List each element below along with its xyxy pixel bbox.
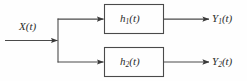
- block-diagram-canvas: X(t) h1(t) h2(t) Y1(t) Y2(t): [0, 0, 247, 81]
- block-1-label-arg: (t): [129, 12, 139, 24]
- block-2-label-sub: 2: [126, 60, 130, 69]
- output-2-label-sub: 2: [218, 60, 222, 69]
- output-2-label-arg: (t): [222, 55, 232, 67]
- block-2-label-arg: (t): [129, 55, 139, 67]
- output-1-label: Y1(t): [212, 13, 232, 24]
- input-signal-label-arg: (t): [26, 20, 36, 32]
- block-1-label: h1(t): [120, 13, 140, 24]
- output-2-label: Y2(t): [212, 56, 232, 67]
- block-1-label-sub: 1: [126, 17, 130, 26]
- input-signal-label: X(t): [19, 21, 36, 32]
- output-1-label-arg: (t): [222, 12, 232, 24]
- block-1-label-main: h: [120, 12, 126, 24]
- input-signal-label-main: X: [19, 20, 26, 32]
- output-1-label-sub: 1: [218, 17, 222, 26]
- block-2-label-main: h: [120, 55, 126, 67]
- block-2-label: h2(t): [120, 56, 140, 67]
